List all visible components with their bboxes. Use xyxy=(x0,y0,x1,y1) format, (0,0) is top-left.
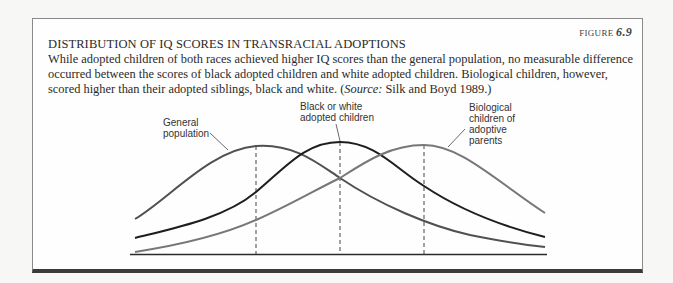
label-biological-line4: parents xyxy=(469,135,502,146)
label-adopted-line1: Black or white xyxy=(300,101,363,112)
label-biological-line3: adoptive xyxy=(469,124,507,135)
label-biological-leader xyxy=(448,129,465,147)
label-adopted-line2: adopted children xyxy=(300,112,374,123)
label-general-leader xyxy=(210,133,228,150)
label-general-line1: General xyxy=(163,117,199,128)
label-adopted-leader xyxy=(336,124,340,141)
label-biological-line1: Biological xyxy=(469,102,512,113)
general-population-curve xyxy=(135,146,545,247)
label-biological-line2: children of xyxy=(469,113,515,124)
label-general-line2: population xyxy=(163,128,209,139)
iq-distribution-chart: General population Black or white adopte… xyxy=(0,0,673,283)
